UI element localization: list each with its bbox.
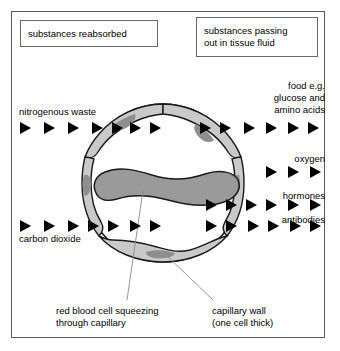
caption-wall-line1: capillary wall [212, 305, 273, 317]
label-oxygen: oxygen [294, 153, 325, 165]
label-food-line2: glucose and [274, 92, 325, 104]
caption-rbc-line1: red blood cell squeezing [56, 305, 158, 317]
callout-passing-line1: substances passing [204, 25, 310, 37]
label-food-line1: food e.g. [274, 80, 325, 92]
arrow-row-oxygen [266, 166, 321, 178]
label-antibodies: antibodies [282, 214, 325, 226]
callout-passing-line2: out in tissue fluid [204, 37, 310, 49]
callout-substances-passing-out: substances passing out in tissue fluid [196, 17, 318, 57]
label-hormones: hormones [283, 190, 325, 202]
callout-substances-reabsorbed: substances reabsorbed [20, 20, 158, 47]
caption-capillary-wall: capillary wall (one cell thick) [212, 305, 273, 329]
label-carbon-dioxide: carbon dioxide [19, 233, 81, 245]
caption-wall-line2: (one cell thick) [212, 317, 273, 329]
caption-red-blood-cell: red blood cell squeezing through capilla… [56, 305, 158, 329]
label-nitrogenous-waste: nitrogenous waste [19, 106, 96, 118]
callout-reabsorbed-text: substances reabsorbed [28, 28, 127, 40]
diagram-page: substances reabsorbed substances passing… [0, 0, 340, 351]
label-food: food e.g. glucose and amino acids [274, 80, 325, 116]
leader-line-capillary-wall [166, 255, 213, 300]
caption-rbc-line2: through capillary [56, 317, 158, 329]
label-food-line3: amino acids [274, 104, 325, 116]
